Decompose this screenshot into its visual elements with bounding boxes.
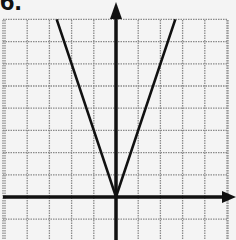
y-axis-arrow-icon	[110, 2, 122, 19]
x-axis-arrow-icon	[222, 191, 236, 203]
absolute-value-graph	[0, 0, 236, 240]
axes	[3, 2, 236, 240]
